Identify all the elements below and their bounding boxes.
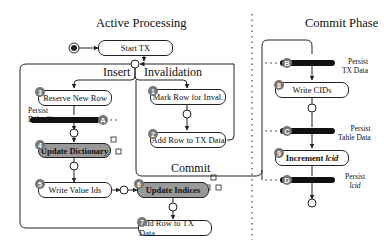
badge-3: 3: [35, 87, 45, 97]
badge-9: 9: [274, 148, 284, 158]
badge-2: 2: [148, 129, 158, 139]
node-write-cids: Write CIDs: [275, 82, 349, 98]
badge-persist-c: C: [282, 126, 292, 136]
badge-6: 6: [134, 179, 144, 189]
node-update-dictionary: Update Dictionary: [38, 143, 111, 158]
node-update-indices: Update Indices: [137, 182, 209, 198]
label-persist-lcid: Persistlcid: [345, 173, 365, 190]
badge-8: 8: [274, 80, 284, 90]
label-persist-table: PersistTable Data: [338, 125, 371, 142]
badge-1: 1: [148, 86, 158, 96]
node-write-value-ids: Write Value Ids: [38, 182, 112, 198]
node-start-tx: Start TX: [98, 40, 173, 56]
badge-persist-a: A: [98, 115, 108, 125]
badge-persist-d: D: [282, 175, 292, 185]
title-active-processing: Active Processing: [96, 16, 187, 31]
title-commit-phase: Commit Phase: [305, 16, 378, 31]
node-add-row-tx-data-insert: Add Row to TX Data: [138, 220, 212, 236]
section-invalidation: Invalidation: [144, 65, 202, 80]
label-persist-delta: PersistDelta Size: [28, 107, 59, 124]
section-commit: Commit: [171, 161, 210, 176]
badge-persist-b: B: [282, 58, 292, 68]
label-persist-tx: PersistTX Data: [342, 58, 368, 75]
section-insert: Insert: [103, 65, 130, 80]
node-mark-row-inval: Mark Row for Inval.: [150, 89, 226, 105]
node-add-row-tx-data-inval: Add Row to TX Data: [150, 132, 226, 148]
node-increment-lcid: Increment lcid: [275, 150, 349, 166]
node-reserve-new-row: Reserve New Row: [38, 90, 112, 106]
badge-7: 7: [137, 217, 147, 227]
badge-4: 4: [35, 140, 45, 150]
badge-5: 5: [35, 179, 45, 189]
